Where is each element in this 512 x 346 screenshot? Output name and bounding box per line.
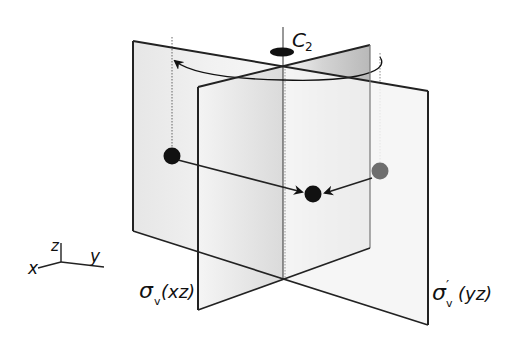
atom-right xyxy=(372,163,389,180)
plane-xz-front-left xyxy=(198,66,283,310)
sigma-v-xz-paren: (xz) xyxy=(161,281,195,302)
axis-x-label: x xyxy=(27,258,39,278)
atom-left xyxy=(164,148,181,165)
sigma-v-prime-yz-prime: ′ xyxy=(446,277,449,293)
axis-y-label: y xyxy=(89,246,101,266)
sigma-v-prime-yz-paren: (yz) xyxy=(458,283,492,304)
sigma-v-prime-yz-label: σ xyxy=(432,280,447,305)
c2-subscript: 2 xyxy=(305,40,313,54)
c2v-symmetry-diagram: C 2 z x y σ v (xz) σ ′ v (yz) xyxy=(0,0,512,346)
c2-axis-symbol-icon xyxy=(270,48,294,57)
sigma-v-prime-yz-subscript: v xyxy=(446,297,453,310)
sigma-v-xz-label: σ xyxy=(139,278,154,303)
axis-z-label: z xyxy=(50,237,60,255)
atom-center xyxy=(305,186,322,203)
sigma-v-xz-subscript: v xyxy=(154,295,161,308)
c2-label: C xyxy=(292,28,306,52)
